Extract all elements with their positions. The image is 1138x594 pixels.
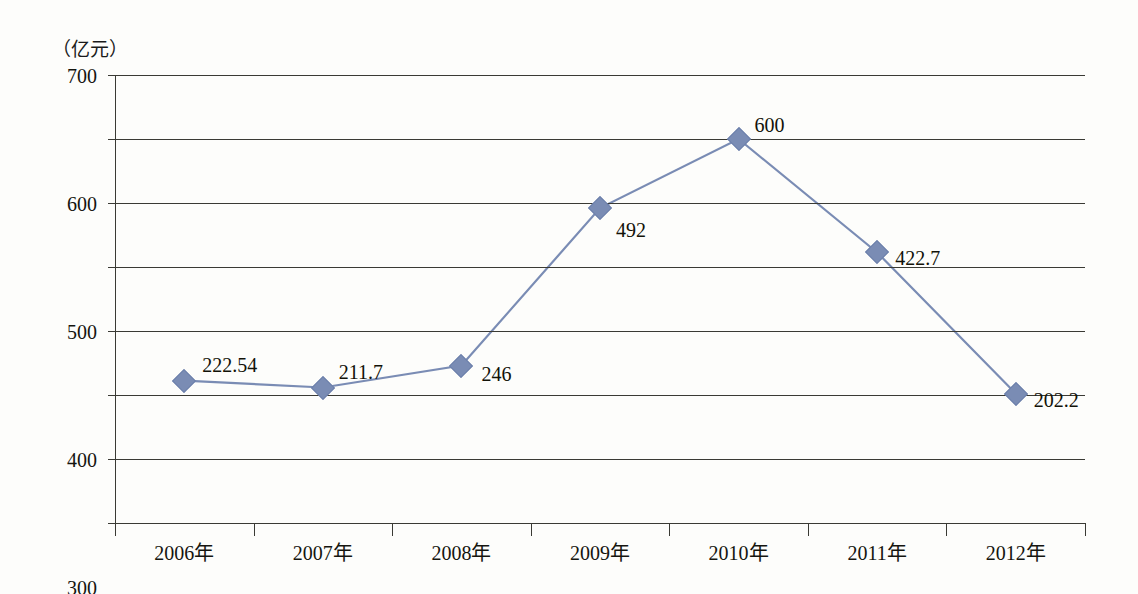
y-axis-tick: 600 bbox=[108, 139, 115, 140]
y-axis-tick: 500 bbox=[108, 203, 115, 204]
series-line bbox=[115, 75, 1085, 523]
y-axis-tick: 300 bbox=[108, 331, 115, 332]
x-axis-tick-label: 2011年 bbox=[848, 537, 907, 566]
y-axis-tick: 400 bbox=[108, 267, 115, 268]
x-axis-tick bbox=[531, 523, 532, 536]
y-axis-tick-label: 400 bbox=[67, 450, 97, 470]
y-axis-tick: 0 bbox=[108, 523, 115, 524]
x-axis-tick bbox=[808, 523, 809, 536]
y-axis-tick: 700 bbox=[108, 75, 115, 76]
y-axis-tick-label: 700 bbox=[67, 66, 97, 86]
x-axis-tick-label: 2009年 bbox=[570, 537, 630, 566]
x-axis-tick-label: 2007年 bbox=[293, 537, 353, 566]
data-point-label: 600 bbox=[755, 115, 785, 135]
data-point-label: 211.7 bbox=[339, 362, 383, 382]
y-gridline bbox=[115, 139, 1085, 140]
x-axis-tick-label: 2010年 bbox=[709, 537, 769, 566]
y-axis-tick-label: 600 bbox=[67, 194, 97, 214]
y-gridline bbox=[115, 459, 1085, 460]
x-axis-tick bbox=[392, 523, 393, 536]
y-axis-tick-label: 500 bbox=[67, 322, 97, 342]
x-axis-tick-label: 2006年 bbox=[154, 537, 214, 566]
x-axis-tick bbox=[115, 523, 116, 536]
data-point-label: 492 bbox=[616, 220, 646, 240]
x-axis-tick-label: 2012年 bbox=[986, 537, 1046, 566]
plot-area: 70060050040030020010002006年2007年2008年200… bbox=[115, 75, 1085, 523]
x-axis-tick bbox=[254, 523, 255, 536]
x-axis-tick bbox=[946, 523, 947, 536]
y-axis-tick-label: 300 bbox=[67, 578, 97, 594]
y-axis-tick: 200 bbox=[108, 395, 115, 396]
y-gridline bbox=[115, 395, 1085, 396]
x-axis-tick bbox=[669, 523, 670, 536]
y-gridline bbox=[115, 523, 1085, 524]
data-point-label: 222.54 bbox=[202, 355, 257, 375]
line-chart: （亿元） 70060050040030020010002006年2007年200… bbox=[0, 0, 1138, 594]
y-axis-tick: 100 bbox=[108, 459, 115, 460]
data-point-label: 246 bbox=[481, 364, 511, 384]
y-gridline bbox=[115, 331, 1085, 332]
data-point-label: 202.2 bbox=[1034, 390, 1079, 410]
y-axis-unit-caption: （亿元） bbox=[52, 34, 128, 61]
x-axis-tick bbox=[1085, 523, 1086, 536]
x-axis-tick-label: 2008年 bbox=[431, 537, 491, 566]
y-gridline bbox=[115, 75, 1085, 76]
data-point-label: 422.7 bbox=[895, 248, 940, 268]
